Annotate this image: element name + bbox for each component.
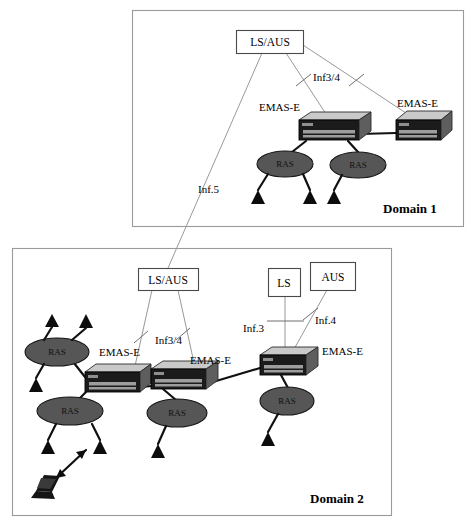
d2-lsaus-box[interactable]: LS/AUS — [139, 269, 199, 291]
d1-ras-left-label: RAS — [276, 159, 294, 169]
diagram-canvas: EMAS-E EMAS-E RAS RAS LS/AUS Inf3/4 Inf.… — [0, 0, 471, 526]
d2-inf3-label: Inf.3 — [243, 322, 265, 334]
d2-ras-a-node: RAS — [25, 338, 89, 366]
d2-ras-d-label: RAS — [278, 396, 296, 406]
d2-aus-box[interactable]: AUS — [311, 263, 356, 291]
d2-ras-a-label: RAS — [48, 347, 66, 357]
d1-ras-right-node: RAS — [330, 152, 386, 178]
d2-ras-b-node: RAS — [37, 397, 103, 425]
d2-aus-label: AUS — [321, 271, 344, 283]
d1-inf34-label: Inf3/4 — [313, 71, 340, 83]
d2-ls-box[interactable]: LS — [269, 269, 301, 297]
d2-inf34-label: Inf3/4 — [155, 334, 182, 346]
domain2-label: Domain 2 — [310, 491, 364, 506]
d2-ras-c-node: RAS — [147, 399, 207, 427]
d1-emas-right-label: EMAS-E — [397, 97, 438, 109]
d2-ras-c-label: RAS — [168, 408, 186, 418]
d2-ras-b-label: RAS — [61, 406, 79, 416]
d2-emas-1-label: EMAS-E — [99, 346, 140, 358]
d2-ls-label: LS — [277, 277, 290, 289]
network-diagram-svg: EMAS-E EMAS-E RAS RAS LS/AUS Inf3/4 Inf.… — [0, 0, 471, 526]
d2-lsaus-label: LS/AUS — [148, 274, 188, 286]
d1-emas-left-device — [299, 112, 371, 140]
d2-emas-3-label: EMAS-E — [322, 345, 363, 357]
canvas-background — [0, 0, 471, 526]
d2-ras-d-node: RAS — [260, 387, 314, 415]
d2-inf4-label: Inf.4 — [315, 314, 337, 326]
d1-inf5-label: Inf.5 — [198, 183, 220, 195]
d1-ras-right-label: RAS — [349, 160, 367, 170]
d1-lsaus-label: LS/AUS — [250, 36, 290, 48]
d2-emas-1-device — [85, 364, 151, 392]
d1-emas-left-label: EMAS-E — [259, 101, 300, 113]
d2-emas-3-device — [260, 347, 318, 375]
d1-lsaus-box[interactable]: LS/AUS — [237, 31, 304, 54]
d1-ras-left-node: RAS — [257, 151, 313, 177]
domain1-label: Domain 1 — [383, 201, 437, 216]
d2-emas-2-label: EMAS-E — [190, 354, 231, 366]
d1-emas-right-device — [396, 111, 452, 140]
